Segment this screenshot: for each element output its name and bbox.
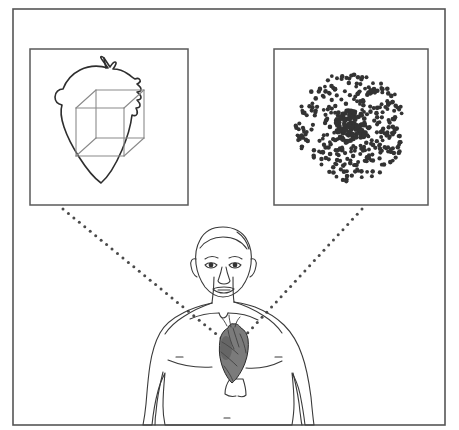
leader-dot — [327, 244, 330, 247]
cell-dot — [317, 150, 321, 154]
leader-dot — [337, 233, 340, 236]
right-pupil — [233, 263, 238, 268]
cell-dot — [302, 130, 306, 134]
leader-dot — [294, 280, 297, 283]
leader-dot — [356, 213, 359, 216]
cell-dot — [322, 133, 326, 137]
cell-dot — [354, 85, 358, 89]
leader-dot — [62, 208, 65, 211]
cell-dot — [382, 162, 387, 167]
cell-dot — [358, 152, 362, 156]
cell-dot — [347, 76, 351, 80]
cell-dot — [394, 155, 398, 159]
leader-dot — [121, 256, 124, 259]
cell-dot — [352, 72, 357, 77]
cell-dot — [393, 127, 397, 131]
cell-dot — [400, 111, 404, 115]
cell-dot — [365, 75, 369, 79]
leader-dot — [322, 249, 325, 252]
figure-root: Multiscale cardiac modeling schematic A … — [0, 0, 459, 430]
cell-dot — [361, 133, 366, 138]
cell-dot — [380, 115, 384, 119]
cell-dot — [371, 81, 375, 85]
leader-dot — [341, 228, 344, 231]
cell-dot — [367, 148, 371, 152]
cell-dot — [311, 153, 316, 158]
cell-dot — [312, 148, 317, 153]
cell-dot — [342, 128, 347, 133]
leader-dot — [289, 285, 292, 288]
leader-dot — [72, 216, 75, 219]
cell-dot — [380, 87, 385, 92]
cell-dot — [381, 110, 385, 114]
cell-dot — [327, 170, 331, 174]
cell-dot — [374, 111, 379, 116]
cell-dot — [376, 121, 380, 125]
cell-dot — [327, 91, 331, 95]
cell-dot — [339, 97, 343, 101]
cell-dot — [391, 159, 395, 163]
cell-dot — [368, 88, 373, 93]
cell-dot — [393, 103, 398, 108]
cell-dot — [341, 163, 346, 168]
cell-dot — [358, 102, 362, 106]
leader-dot — [78, 221, 81, 224]
leader-dot — [198, 319, 201, 322]
cell-dot — [356, 160, 360, 164]
leader-dot — [149, 279, 152, 282]
cell-dot — [363, 87, 367, 91]
heart-cube-panel-border — [30, 49, 188, 205]
cell-dot — [321, 150, 325, 154]
cell-dot — [344, 108, 349, 113]
leader-dot — [214, 332, 217, 335]
cell-dot — [333, 87, 338, 92]
cell-dot — [322, 143, 326, 147]
cell-dot — [369, 142, 373, 146]
leader-dot — [284, 290, 287, 293]
cell-dot — [323, 113, 327, 117]
cell-dot — [339, 167, 343, 171]
cell-dot — [370, 174, 374, 178]
leader-dot — [280, 295, 283, 298]
leader-dot — [132, 265, 135, 268]
cell-dot — [360, 75, 364, 79]
leader-dot — [303, 269, 306, 272]
cell-dot — [391, 100, 395, 104]
leader-dot — [313, 259, 316, 262]
cell-dot — [328, 142, 332, 146]
cell-dot — [335, 93, 339, 97]
cell-dot — [388, 121, 392, 125]
heart-cube-panel[interactable] — [30, 49, 188, 205]
cell-dot — [377, 156, 381, 160]
cell-dot — [350, 173, 354, 177]
cell-dot — [368, 104, 372, 108]
cell-dot — [367, 127, 371, 131]
cell-cloud-panel[interactable] — [274, 49, 428, 205]
leader-dot — [94, 234, 97, 237]
cell-dot — [392, 109, 396, 113]
cell-dot — [360, 175, 364, 179]
cell-dot — [380, 129, 385, 134]
leader-dot — [251, 326, 254, 329]
leader-dot — [332, 238, 335, 241]
cell-dot — [320, 163, 324, 167]
leader-dot — [138, 270, 141, 273]
cell-dot — [358, 128, 363, 133]
cell-dot — [335, 76, 339, 80]
leader-dot — [181, 305, 184, 308]
cell-dot — [335, 152, 339, 156]
cell-dot — [311, 101, 315, 105]
cell-dot — [397, 149, 401, 153]
cell-dot — [379, 82, 383, 86]
cell-dot — [392, 151, 397, 156]
figure-canvas — [0, 0, 459, 430]
cell-dot — [377, 106, 381, 110]
leader-dot — [154, 283, 157, 286]
cell-dot — [365, 155, 370, 160]
leader-dot — [346, 223, 349, 226]
cell-dot — [315, 105, 319, 109]
cell-dot — [335, 158, 340, 163]
cell-dot — [365, 170, 369, 174]
heart-shading — [220, 336, 232, 360]
cell-dot — [323, 89, 328, 94]
